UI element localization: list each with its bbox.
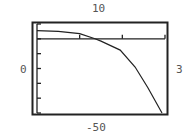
- function-curve: [37, 31, 162, 113]
- graph-plot: [0, 0, 191, 137]
- graph-frame: [33, 23, 168, 115]
- axes: [37, 24, 165, 113]
